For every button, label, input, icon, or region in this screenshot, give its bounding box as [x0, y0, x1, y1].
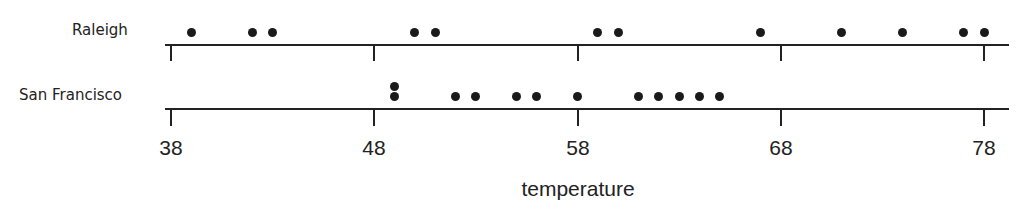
- x-axis-title: temperature: [521, 177, 634, 201]
- x-tick-label: 78: [972, 136, 995, 160]
- data-point: [410, 28, 419, 37]
- row-label-san-francisco: San Francisco: [19, 86, 122, 104]
- data-point: [390, 92, 399, 101]
- data-point: [898, 28, 907, 37]
- data-point: [532, 92, 541, 101]
- data-point: [959, 28, 968, 37]
- x-tick-label: 58: [566, 136, 589, 160]
- data-point: [756, 28, 765, 37]
- axis-tick: [983, 108, 985, 126]
- data-point: [268, 28, 277, 37]
- axis-tick: [577, 44, 579, 61]
- data-point: [573, 92, 582, 101]
- axis-tick: [780, 44, 782, 61]
- data-point: [471, 92, 480, 101]
- row-label-raleigh: Raleigh: [72, 21, 128, 39]
- data-point: [634, 92, 643, 101]
- axis-tick: [780, 108, 782, 126]
- axis-tick: [170, 108, 172, 126]
- axis-tick: [170, 44, 172, 61]
- x-tick-label: 38: [159, 136, 182, 160]
- data-point: [675, 92, 684, 101]
- data-point: [512, 92, 521, 101]
- data-point: [187, 28, 196, 37]
- data-point: [654, 92, 663, 101]
- data-point: [715, 92, 724, 101]
- data-point: [980, 28, 989, 37]
- axis-tick: [373, 44, 375, 61]
- data-point: [248, 28, 257, 37]
- axis-tick: [983, 44, 985, 61]
- data-point: [431, 28, 440, 37]
- data-point: [614, 28, 623, 37]
- data-point: [451, 92, 460, 101]
- x-tick-label: 48: [362, 136, 385, 160]
- axis-tick: [577, 108, 579, 126]
- data-point: [837, 28, 846, 37]
- x-tick-label: 68: [769, 136, 792, 160]
- axis-line: [165, 44, 1009, 46]
- axis-line: [165, 108, 1009, 110]
- data-point: [390, 82, 399, 91]
- data-point: [695, 92, 704, 101]
- axis-tick: [373, 108, 375, 126]
- data-point: [593, 28, 602, 37]
- dot-plot-chart: Raleigh San Francisco 38 48 58 68 78 tem…: [0, 0, 1025, 214]
